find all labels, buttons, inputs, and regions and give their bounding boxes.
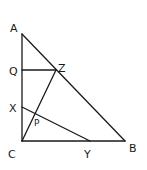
segment-CZ [22,70,56,141]
label-B: B [129,142,137,155]
geometry-diagram: A Q Z X P C Y B [0,0,147,170]
label-X: X [9,102,17,115]
label-P: P [34,118,40,128]
segment-XY [22,107,90,141]
label-C: C [8,148,16,161]
label-Z: Z [58,62,66,75]
label-Q: Q [9,65,18,78]
label-Y: Y [83,148,91,161]
label-A: A [10,22,18,35]
